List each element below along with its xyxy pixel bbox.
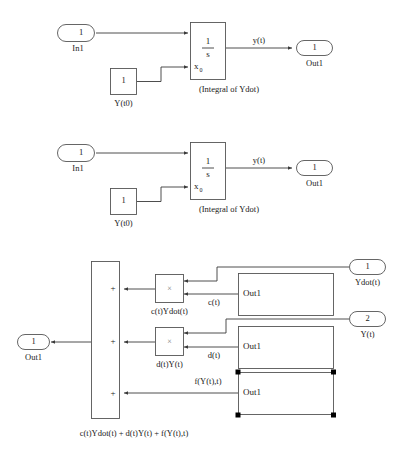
integrator-diagram-top: 1 In1 1 Y(t0) 1 s x 0 (Integral of xyxy=(58,23,333,108)
outport-out1-top-number: 1 xyxy=(312,42,316,52)
inport-y-label: Y(t) xyxy=(360,329,374,339)
signal-label-yt-top: y(t) xyxy=(253,35,265,45)
inport-ydot-number: 1 xyxy=(365,261,369,271)
signal-label-yt-middle: y(t) xyxy=(253,155,265,165)
subsystem-block-ct-outlabel: Out1 xyxy=(243,288,261,298)
wire-yt0-to-integrator-top xyxy=(137,67,188,82)
integrator-block-middle-ic-port: x xyxy=(194,181,199,191)
summation-diagram-bottom: + + + 1 Out1 × c(t)Ydot(t) × xyxy=(18,260,386,438)
signal-label-fyt: f(Y(t),t) xyxy=(194,376,221,386)
inport-y-number: 2 xyxy=(365,313,369,323)
sum-block-sign-2: + xyxy=(110,336,115,346)
product-block-d-y-label: d(t)Y(t) xyxy=(156,359,183,369)
outport-out1-sum-label: Out1 xyxy=(25,352,42,362)
integrator-block-top-numerator: 1 xyxy=(206,36,211,46)
inport-in1-top-label: In1 xyxy=(72,43,83,53)
product-block-c-ydot[interactable]: × c(t)Ydot(t) xyxy=(151,275,188,316)
inport-in1-top-number: 1 xyxy=(79,27,83,37)
wire-yt0-to-integrator-middle xyxy=(137,187,188,202)
block-diagram-svg: 1 In1 1 Y(t0) 1 s x 0 (Integral of xyxy=(0,0,397,459)
product-block-d-y[interactable]: × d(t)Y(t) xyxy=(156,328,184,369)
selection-handle-bottom-right[interactable] xyxy=(331,413,336,418)
sum-block-sign-1: + xyxy=(110,283,115,293)
inport-ydot-label: Ydot(t) xyxy=(355,277,380,287)
inport-y[interactable]: 2 Y(t) xyxy=(350,312,386,339)
outport-out1-top[interactable]: 1 Out1 xyxy=(297,41,333,68)
sum-block-sign-3: + xyxy=(110,388,115,398)
integrator-block-middle-denominator: s xyxy=(206,169,210,179)
selection-handle-top-right[interactable] xyxy=(331,370,336,375)
integrator-block-middle-numerator: 1 xyxy=(206,156,211,166)
integrator-block-top-denominator: s xyxy=(206,49,210,59)
summation-caption: c(t)Ydot(t) + d(t)Y(t) + f(Y(t),t) xyxy=(80,428,189,438)
inport-ydot[interactable]: 1 Ydot(t) xyxy=(350,260,386,287)
outport-out1-sum[interactable]: 1 Out1 xyxy=(18,335,50,362)
const-block-yt0-top[interactable]: 1 Y(t0) xyxy=(111,69,137,108)
outport-out1-sum-number: 1 xyxy=(31,336,35,346)
outport-out1-middle-number: 1 xyxy=(312,162,316,172)
subsystem-block-ct[interactable]: Out1 xyxy=(239,274,334,316)
integrator-block-top-caption: (Integral of Ydot) xyxy=(199,84,259,94)
inport-in1-middle-number: 1 xyxy=(79,147,83,157)
const-block-yt0-middle[interactable]: 1 Y(t0) xyxy=(111,189,137,228)
integrator-block-middle[interactable]: 1 s x 0 (Integral of Ydot) xyxy=(191,143,260,214)
inport-in1-middle[interactable]: 1 In1 xyxy=(58,145,95,173)
signal-label-ct: c(t) xyxy=(208,297,220,307)
inport-in1-middle-label: In1 xyxy=(72,163,83,173)
selection-handle-bottom-left[interactable] xyxy=(236,413,241,418)
subsystem-block-dt[interactable]: Out1 xyxy=(239,327,334,369)
signal-label-dt: d(t) xyxy=(208,350,220,360)
integrator-block-middle-caption: (Integral of Ydot) xyxy=(199,204,259,214)
product-block-d-y-symbol: × xyxy=(167,337,172,346)
outport-out1-top-label: Out1 xyxy=(306,58,323,68)
const-block-yt0-top-value: 1 xyxy=(121,75,125,85)
const-block-yt0-middle-label: Y(t0) xyxy=(114,218,133,228)
const-block-yt0-top-label: Y(t0) xyxy=(114,98,133,108)
selection-handle-top-left[interactable] xyxy=(236,370,241,375)
subsystem-block-dt-outlabel: Out1 xyxy=(243,341,261,351)
product-block-c-ydot-label: c(t)Ydot(t) xyxy=(151,306,188,316)
subsystem-block-fyt[interactable]: Out1 xyxy=(236,370,337,418)
subsystem-block-fyt-outlabel: Out1 xyxy=(243,387,261,397)
sum-block[interactable]: + + + xyxy=(92,262,120,419)
outport-out1-middle[interactable]: 1 Out1 xyxy=(297,161,333,188)
const-block-yt0-middle-value: 1 xyxy=(121,195,125,205)
inport-in1-top[interactable]: 1 In1 xyxy=(58,25,95,53)
integrator-block-middle-ic-port-sub: 0 xyxy=(200,187,203,193)
integrator-diagram-middle: 1 In1 1 Y(t0) 1 s x 0 (Integral of Ydot)… xyxy=(58,143,333,228)
product-block-c-ydot-symbol: × xyxy=(167,284,172,293)
outport-out1-middle-label: Out1 xyxy=(306,178,323,188)
figure-canvas: 1 In1 1 Y(t0) 1 s x 0 (Integral of xyxy=(0,0,397,459)
integrator-block-top[interactable]: 1 s x 0 (Integral of Ydot) xyxy=(191,23,260,94)
integrator-block-top-ic-port: x xyxy=(194,61,199,71)
integrator-block-top-ic-port-sub: 0 xyxy=(200,67,203,73)
